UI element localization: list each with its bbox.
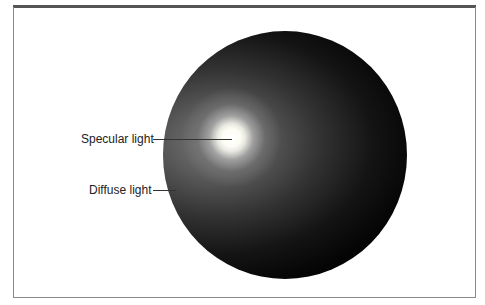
shaded-sphere — [163, 31, 407, 279]
specular-light-label: Specular light — [81, 132, 154, 146]
specular-leader-line — [153, 139, 232, 140]
diffuse-leader-line — [153, 190, 176, 191]
diffuse-light-label: Diffuse light — [89, 183, 151, 197]
